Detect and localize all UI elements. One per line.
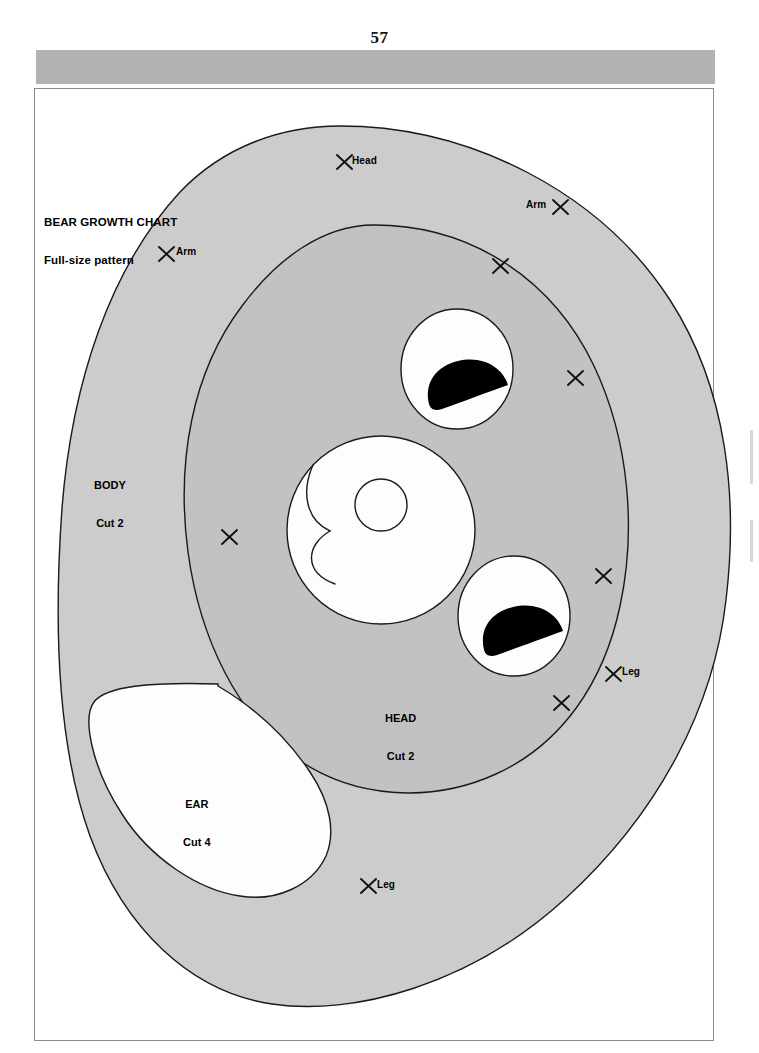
ear-piece-cut: Cut 4 (183, 836, 211, 849)
registration-label-arm-right: Arm (526, 199, 546, 210)
ear-piece-name: EAR (183, 798, 211, 811)
head-piece-name: HEAD (385, 712, 416, 725)
pattern-title-block: BEAR GROWTH CHART Full-size pattern (44, 191, 177, 279)
body-piece-name: BODY (94, 479, 126, 492)
registration-label-head: Head (352, 155, 377, 166)
pattern-title-line1: BEAR GROWTH CHART (44, 216, 177, 229)
body-piece-label: BODY Cut 2 (94, 454, 126, 542)
pattern-title-line2: Full-size pattern (44, 254, 177, 267)
registration-label-leg-bottom: Leg (377, 879, 395, 890)
head-piece-label: HEAD Cut 2 (385, 687, 416, 775)
ear-piece-label: EAR Cut 4 (183, 773, 211, 861)
nose-piece[interactable] (355, 479, 407, 531)
registration-label-leg-right: Leg (622, 666, 640, 677)
head-piece-cut: Cut 2 (385, 750, 416, 763)
registration-label-arm-left: Arm (176, 246, 196, 257)
body-piece-cut: Cut 2 (94, 517, 126, 530)
